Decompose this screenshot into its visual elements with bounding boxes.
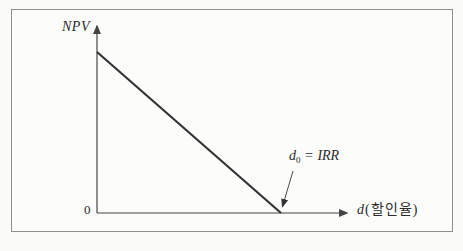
annotation-value: IRR bbox=[317, 148, 339, 163]
irr-annotation-label: d0 = IRR bbox=[289, 149, 339, 165]
x-axis-label: d(할인율) bbox=[357, 203, 418, 217]
x-axis-unit: (할인율) bbox=[365, 202, 418, 217]
annotation-equals: = bbox=[304, 148, 314, 163]
annotation-variable: d bbox=[289, 148, 296, 163]
y-axis-label: NPV bbox=[62, 20, 90, 34]
figure-canvas: NPV 0 d0 = IRR d(할인율) bbox=[0, 0, 463, 251]
origin-label: 0 bbox=[84, 203, 91, 216]
figure-frame bbox=[11, 9, 453, 232]
x-axis-variable: d bbox=[357, 202, 365, 217]
annotation-subscript: 0 bbox=[296, 155, 301, 165]
